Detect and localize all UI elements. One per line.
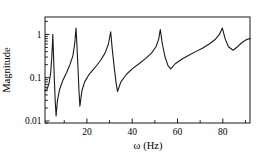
x-tick-label: 80 — [218, 127, 228, 137]
y-axis-label: Magnitude — [1, 47, 12, 93]
x-tick-label: 40 — [127, 127, 137, 137]
x-tick-label: 60 — [173, 127, 183, 137]
y-tick-label: 0.1 — [30, 73, 42, 83]
x-axis-label: ω (Hz) — [134, 140, 163, 152]
chart-canvas: 2040608010.10.01 Magnitude ω (Hz) — [0, 0, 262, 158]
y-tick-label: 0.01 — [25, 116, 42, 126]
y-tick-label: 1 — [37, 30, 42, 40]
x-tick-label: 20 — [82, 127, 92, 137]
frequency-response-chart: 2040608010.10.01 Magnitude ω (Hz) — [0, 0, 262, 158]
response-curve — [45, 28, 250, 116]
